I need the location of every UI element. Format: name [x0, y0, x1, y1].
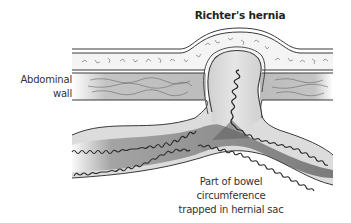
- fat-layer: [72, 28, 333, 70]
- abdominal-wall-label-line1: Abdominal: [10, 73, 72, 87]
- bowel-label: Part of bowel circumference trapped in h…: [176, 175, 286, 217]
- bowel-label-line3: trapped in hernial sac: [176, 203, 286, 217]
- diagram-title: Richter's hernia: [190, 9, 290, 21]
- abdominal-wall-label-line2: wall: [10, 87, 72, 101]
- bowel-label-line1: Part of bowel: [176, 175, 286, 189]
- richters-hernia-illustration: Richter's hernia Abdominal wall Part of …: [0, 0, 351, 223]
- muscle-layer: [72, 73, 333, 100]
- bowel: [72, 100, 333, 185]
- bowel-label-line2: circumference: [176, 189, 286, 203]
- abdominal-wall-label: Abdominal wall: [10, 73, 72, 101]
